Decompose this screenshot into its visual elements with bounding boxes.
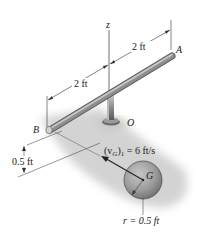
arrowhead-icon bbox=[103, 65, 108, 69]
arrowhead-icon bbox=[22, 168, 26, 173]
rod-ball-diagram: z 2 ft 2 ft O A B 0.5 ft G bbox=[0, 0, 203, 236]
arrowhead-icon bbox=[22, 146, 26, 151]
radius-label: r = 0.5 ft bbox=[123, 215, 159, 226]
dimension-label-bo: 2 ft bbox=[74, 78, 88, 89]
arrowhead-icon bbox=[48, 96, 53, 100]
point-a-label: A bbox=[175, 44, 183, 55]
arrowhead-icon bbox=[110, 60, 115, 64]
arrowhead-icon bbox=[165, 30, 170, 34]
dimension-label-drop: 0.5 ft bbox=[12, 156, 33, 167]
point-b-label: B bbox=[33, 124, 39, 135]
point-g-label: G bbox=[146, 170, 153, 181]
point-o-label: O bbox=[127, 117, 134, 128]
z-axis-label: z bbox=[105, 19, 110, 30]
dimension-label-oa: 2 ft bbox=[132, 41, 146, 52]
